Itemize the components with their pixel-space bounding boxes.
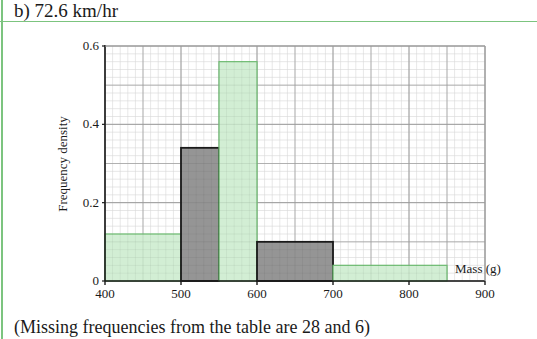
y-tick-label: 0.6 xyxy=(83,38,100,53)
x-tick-label: 800 xyxy=(399,286,419,301)
y-axis-tick-labels: 00.20.40.6 xyxy=(83,38,100,288)
x-tick-label: 700 xyxy=(323,286,343,301)
missing-frequencies-note: (Missing frequencies from the table are … xyxy=(14,317,370,337)
x-tick-label: 600 xyxy=(247,286,267,301)
y-axis-label: Frequency density xyxy=(55,116,70,212)
y-tick-label: 0.4 xyxy=(83,116,100,131)
x-tick-label: 500 xyxy=(171,286,191,301)
x-axis-tick-labels: 400500600700800900 xyxy=(95,286,495,301)
x-axis-label: Mass (g) xyxy=(455,261,501,276)
x-tick-label: 900 xyxy=(475,286,495,301)
histogram-bar-500-550 xyxy=(181,148,219,281)
histogram-chart: 00.20.40.6 400500600700800900 Frequency … xyxy=(0,0,537,339)
x-tick-label: 400 xyxy=(95,286,115,301)
y-tick-label: 0.2 xyxy=(83,195,99,210)
